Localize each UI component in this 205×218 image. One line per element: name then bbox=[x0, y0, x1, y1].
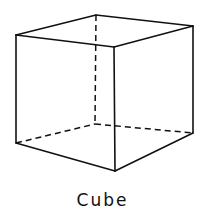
edge-top-right bbox=[114, 26, 193, 47]
edge-top-front bbox=[16, 35, 114, 47]
cube-figure: Cube bbox=[0, 0, 205, 218]
edge-top-left bbox=[16, 15, 96, 35]
edge-vertical-front bbox=[114, 47, 115, 171]
edge-top-back bbox=[96, 15, 193, 26]
edge-bottom-right bbox=[115, 133, 193, 171]
cube-drawing bbox=[0, 0, 205, 218]
hidden-edge-bottom-left bbox=[16, 124, 95, 143]
edge-bottom-front bbox=[16, 143, 115, 171]
hidden-edge-vertical-back bbox=[95, 15, 96, 124]
hidden-edge-bottom-back bbox=[95, 124, 193, 133]
diagram-caption: Cube bbox=[0, 190, 205, 210]
